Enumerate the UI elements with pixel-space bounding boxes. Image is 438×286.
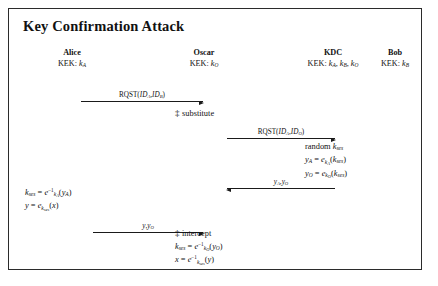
party-name-kdc: KDC (287, 47, 379, 58)
message-label-rqst-ab: RQST(IDA,IDB) (81, 91, 203, 99)
kek-label: KEK: (190, 59, 209, 68)
party-header-kdc: KDC KEK: kA, kB, kO (287, 47, 379, 70)
message-arrow-oscar-to-kdc-rqst: RQST(IDA,IDO) (227, 120, 335, 140)
party-name-alice: Alice (27, 47, 117, 58)
message-label-rqst-ao: RQST(IDA,IDO) (227, 128, 335, 136)
arrow-head-right-icon (199, 101, 204, 105)
party-header-oscar: Oscar KEK: kO (159, 47, 249, 70)
double-dagger-icon: ‡ (175, 228, 182, 238)
double-dagger-icon: ‡ (175, 108, 182, 118)
arrow-line (227, 138, 335, 139)
message-arrow-kdc-to-oscar-keys: yA,yO (227, 170, 335, 190)
party-kek-bob: KEK: kB (367, 58, 423, 70)
party-header-bob: Bob KEK: kB (367, 47, 423, 70)
kdc-line-random: random kses (305, 140, 347, 153)
figure-title: Key Confirmation Attack (23, 18, 184, 35)
arrow-line (81, 101, 203, 102)
party-kek-oscar: KEK: kO (159, 58, 249, 70)
kek-label: KEK: (381, 59, 400, 68)
annotation-intercept: ‡intercept (175, 228, 211, 238)
annotation-substitute: ‡substitute (175, 108, 214, 118)
party-header-alice: Alice KEK: kA (27, 47, 117, 70)
computation-block-alice: kses = e−1kA(yA) y = ekses(x) (25, 186, 72, 213)
oscar-line-x: x = e−1kses(y) (175, 253, 223, 266)
arrow-line (227, 188, 335, 189)
annotation-substitute-text: substitute (182, 109, 214, 118)
message-label-ya-yo: yA,yO (227, 178, 335, 186)
alice-line-y: y = ekses(x) (25, 199, 72, 212)
kdc-random-word: random (305, 142, 331, 151)
party-kek-alice: KEK: kA (27, 58, 117, 70)
oscar-line-kses: kses = e−1kO(yO) (175, 240, 223, 253)
kek-label: KEK: (308, 59, 327, 68)
figure-frame: Key Confirmation Attack Alice KEK: kA Os… (8, 8, 422, 270)
party-kek-kdc: KEK: kA, kB, kO (287, 58, 379, 70)
arrow-head-left-icon (226, 188, 231, 192)
computation-block-oscar: kses = e−1kO(yO) x = e−1kses(y) (175, 240, 223, 267)
annotation-intercept-text: intercept (182, 229, 211, 238)
party-name-bob: Bob (367, 47, 423, 58)
party-name-oscar: Oscar (159, 47, 249, 58)
kdc-line-ya: yA = ekA(kses) (305, 153, 347, 166)
alice-line-kses: kses = e−1kA(yA) (25, 186, 72, 199)
message-arrow-alice-to-oscar-rqst: RQST(IDA,IDB) (81, 83, 203, 103)
kek-label: KEK: (58, 59, 77, 68)
